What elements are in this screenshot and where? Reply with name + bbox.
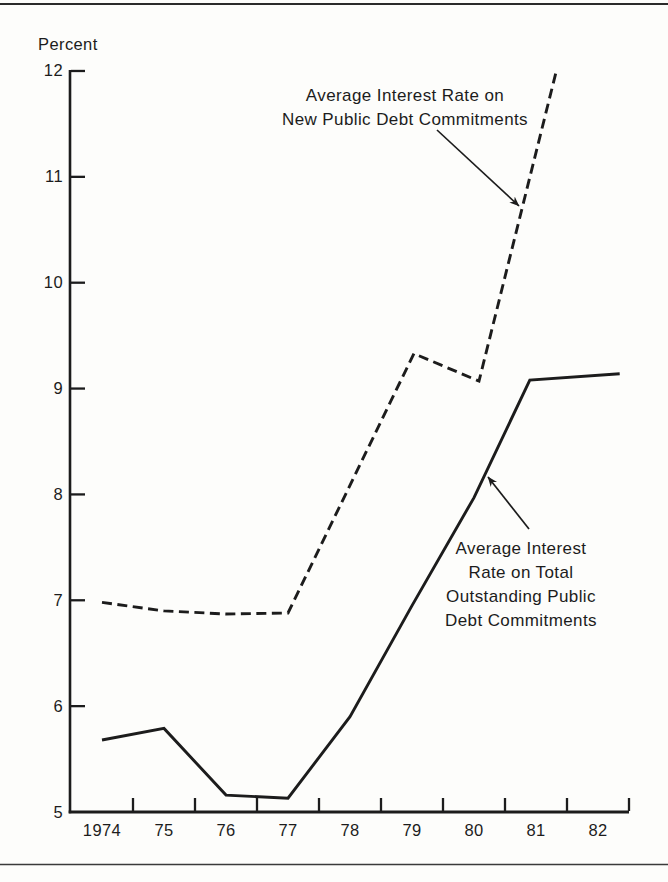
annotation-label-outstanding: Rate on Total <box>468 563 573 582</box>
y-tick-label: 10 <box>44 273 63 291</box>
axes <box>69 70 629 813</box>
x-tick-label: 79 <box>402 821 421 839</box>
series-line-outstanding <box>102 374 620 799</box>
x-tick-label: 81 <box>526 821 545 839</box>
scanned-figure-page: Percent 56789101112 19747576777879808182… <box>0 0 668 882</box>
series-annotations: Average Interest Rate onNew Public Debt … <box>282 86 597 630</box>
annotation-arrow-outstanding <box>488 477 529 529</box>
y-tick-label: 11 <box>45 167 63 185</box>
x-tick-label: 76 <box>216 821 235 839</box>
interest-rate-line-chart: Percent 56789101112 19747576777879808182… <box>0 0 668 882</box>
annotation-label-outstanding: Outstanding Public <box>446 587 596 606</box>
y-tick-label: 7 <box>53 591 63 609</box>
x-tick-label: 75 <box>154 821 173 839</box>
x-tick-label: 1974 <box>83 821 121 839</box>
annotation-label-new: Average Interest Rate on <box>306 86 504 105</box>
annotation-arrow-new <box>437 130 519 206</box>
y-tick-label: 5 <box>53 803 63 821</box>
y-tick-label: 12 <box>44 61 63 79</box>
x-tick-label: 78 <box>340 821 359 839</box>
y-tick-label: 8 <box>53 485 63 503</box>
x-tick-label: 82 <box>588 821 607 839</box>
x-tick-label: 80 <box>464 821 483 839</box>
annotation-label-outstanding: Debt Commitments <box>445 611 597 630</box>
y-axis-ticks: 56789101112 <box>44 61 85 820</box>
x-tick-label: 77 <box>278 821 297 839</box>
data-series-lines <box>102 73 620 798</box>
x-axis-ticks: 19747576777879808182 <box>83 798 629 839</box>
y-tick-label: 6 <box>53 697 63 715</box>
annotation-label-new: New Public Debt Commitments <box>282 110 528 129</box>
annotation-label-outstanding: Average Interest <box>456 539 587 558</box>
series-line-new <box>102 73 556 614</box>
y-axis-title: Percent <box>38 35 98 53</box>
y-tick-label: 9 <box>53 379 63 397</box>
